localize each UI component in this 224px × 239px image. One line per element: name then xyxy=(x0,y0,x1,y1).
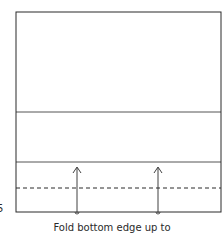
fold-arrow-right-icon xyxy=(154,167,162,214)
fold-arrow-left-icon xyxy=(73,167,81,214)
step-number: 5 xyxy=(0,203,3,214)
instruction-caption: Fold bottom edge up to xyxy=(0,222,224,233)
fold-diagram xyxy=(0,0,224,239)
